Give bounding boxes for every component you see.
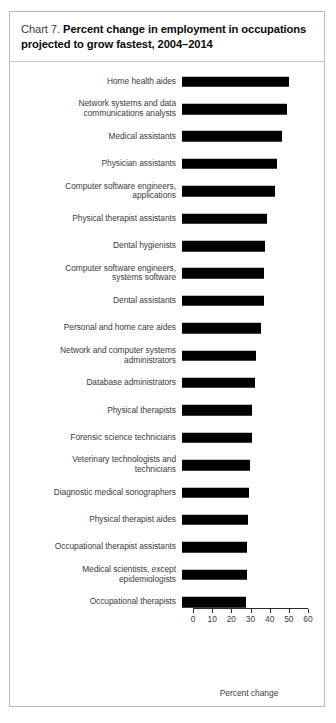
bar-row: Forensic science technicians (10, 424, 324, 451)
bar (182, 186, 275, 197)
x-axis-tick (231, 609, 232, 613)
bar-row: Medical scientists, except epidemiologis… (10, 561, 324, 588)
bar (182, 569, 247, 580)
x-axis-tick-label: 60 (298, 614, 318, 624)
x-axis-tick (251, 609, 252, 613)
bar (182, 296, 264, 307)
bar-track (182, 506, 324, 533)
bar-category-label: Medical scientists, except epidemiologis… (10, 565, 182, 584)
bar (182, 460, 250, 471)
bar-category-label: Dental assistants (10, 296, 182, 306)
bar (182, 104, 287, 115)
bar-row: Network systems and data communications … (10, 95, 324, 122)
bar-track (182, 68, 324, 95)
bar-track (182, 561, 324, 588)
bar-category-label: Computer software engineers, systems sof… (10, 264, 182, 283)
bar-track (182, 287, 324, 314)
bar (182, 268, 264, 279)
bar-row: Medical assistants (10, 123, 324, 150)
bar (182, 433, 252, 444)
bar (182, 213, 267, 224)
x-axis-tick (212, 609, 213, 613)
bar-row: Dental hygienists (10, 232, 324, 259)
bar (182, 597, 246, 608)
bar (182, 515, 248, 526)
x-axis-tick-label: 10 (202, 614, 222, 624)
x-axis: 0102030405060 (182, 608, 312, 668)
x-axis-tick-label: 40 (260, 614, 280, 624)
x-axis-tick-label: 30 (241, 614, 261, 624)
bar-track (182, 232, 324, 259)
bar-category-label: Diagnostic medical sonographers (10, 488, 182, 498)
bar-row: Network and computer systems administrat… (10, 342, 324, 369)
bar-row: Database administrators (10, 369, 324, 396)
bar-category-label: Veterinary technologists and technicians (10, 455, 182, 474)
title-divider (10, 61, 324, 62)
bar (182, 542, 247, 553)
bar-category-label: Physical therapist assistants (10, 214, 182, 224)
bar-track (182, 123, 324, 150)
bar (182, 131, 282, 142)
bar-track (182, 95, 324, 122)
bar-row: Veterinary technologists and technicians (10, 451, 324, 478)
bar-track (182, 479, 324, 506)
x-axis-title: Percent change (182, 688, 316, 698)
bar-category-label: Occupational therapist assistants (10, 542, 182, 552)
x-axis-tick-label: 50 (279, 614, 299, 624)
bar (182, 76, 289, 87)
bar-track (182, 397, 324, 424)
chart-number-label: Chart 7. (21, 23, 60, 35)
bar-category-label: Database administrators (10, 378, 182, 388)
x-axis-tick (289, 609, 290, 613)
bar-category-label: Physical therapists (10, 406, 182, 416)
bar-category-label: Physician assistants (10, 159, 182, 169)
bar-row: Physical therapist assistants (10, 205, 324, 232)
x-axis-tick (308, 609, 309, 613)
bar-category-label: Occupational therapists (10, 597, 182, 607)
bar-category-label: Physical therapist aides (10, 515, 182, 525)
bar-track (182, 369, 324, 396)
bar (182, 487, 249, 498)
bar-category-label: Dental hygienists (10, 241, 182, 251)
chart-card: Chart 7. Percent change in employment in… (9, 11, 325, 707)
bar (182, 323, 261, 334)
bar-category-label: Computer software engineers, application… (10, 182, 182, 201)
bar-track (182, 342, 324, 369)
bar-category-label: Forensic science technicians (10, 433, 182, 443)
bar-chart-plot-area: Home health aidesNetwork systems and dat… (10, 68, 324, 668)
bar-track (182, 424, 324, 451)
x-axis-tick (270, 609, 271, 613)
bar-track (182, 534, 324, 561)
bar-row: Physical therapists (10, 397, 324, 424)
bar-track (182, 205, 324, 232)
bar-row: Dental assistants (10, 287, 324, 314)
bar-row: Computer software engineers, application… (10, 178, 324, 205)
bar-row: Personal and home care aides (10, 315, 324, 342)
bar-category-label: Network systems and data communications … (10, 99, 182, 118)
bar-track (182, 260, 324, 287)
x-axis-tick-label: 0 (183, 614, 203, 624)
bar (182, 350, 256, 361)
bar-track (182, 150, 324, 177)
bar-track (182, 451, 324, 478)
bar-row: Physician assistants (10, 150, 324, 177)
x-axis-tick (193, 609, 194, 613)
bar-row: Home health aides (10, 68, 324, 95)
bar-track (182, 315, 324, 342)
chart-title-text: Percent change in employment in occupati… (21, 23, 306, 50)
bar-row: Computer software engineers, systems sof… (10, 260, 324, 287)
bar-row: Physical therapist aides (10, 506, 324, 533)
bar (182, 378, 255, 389)
bar (182, 405, 252, 416)
bar-category-label: Network and computer systems administrat… (10, 346, 182, 365)
bar-track (182, 178, 324, 205)
bar-category-label: Home health aides (10, 77, 182, 87)
bar (182, 241, 265, 252)
bar-category-label: Personal and home care aides (10, 323, 182, 333)
x-axis-tick-label: 20 (221, 614, 241, 624)
chart-title: Chart 7. Percent change in employment in… (21, 22, 315, 52)
bar (182, 159, 277, 170)
bar-row: Occupational therapist assistants (10, 534, 324, 561)
bar-category-label: Medical assistants (10, 132, 182, 142)
bar-row: Diagnostic medical sonographers (10, 479, 324, 506)
